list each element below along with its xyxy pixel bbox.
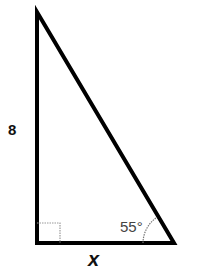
- horizontal-side-label: x: [87, 248, 100, 270]
- triangle: [37, 12, 174, 243]
- angle-arc: [143, 218, 156, 243]
- triangle-diagram: 8 x 55°: [0, 0, 203, 280]
- right-angle-marker: [37, 223, 60, 243]
- angle-label: 55°: [120, 218, 143, 235]
- vertical-side-label: 8: [8, 121, 16, 138]
